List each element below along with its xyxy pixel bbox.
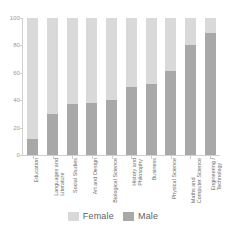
x-label-slot: Education bbox=[23, 157, 43, 207]
x-label-slot: History and Philosophy bbox=[122, 157, 142, 207]
bar-segment-female bbox=[146, 18, 157, 84]
y-axis-labels: 100 80 60 40 20 0 bbox=[0, 14, 20, 155]
y-tick-mark bbox=[19, 73, 22, 74]
x-axis-label-line: Languages and bbox=[53, 158, 59, 196]
plot-area: 100 80 60 40 20 0 bbox=[0, 0, 226, 160]
table-row[interactable] bbox=[126, 18, 137, 155]
x-axis-label-social-studies: Social Studies bbox=[72, 158, 78, 193]
x-label-slot: Languages and Literature bbox=[43, 157, 63, 207]
bar-segment-male bbox=[205, 33, 216, 155]
bar-slot bbox=[181, 18, 201, 155]
x-axis-label-line: Art and Design bbox=[92, 158, 98, 194]
x-axis-label-education: Education bbox=[33, 158, 39, 182]
x-axis-label-line: Physical Science bbox=[171, 158, 177, 200]
x-label-slot: Maths and Computer Science bbox=[181, 157, 201, 207]
y-tick-mark bbox=[19, 18, 22, 19]
y-tick-mark bbox=[19, 128, 22, 129]
x-axis-label-engineering-technology: Engineering / Technology bbox=[210, 158, 222, 190]
bar-segment-female bbox=[67, 18, 78, 104]
bar-segment-male bbox=[185, 45, 196, 155]
table-row[interactable] bbox=[205, 18, 216, 155]
bar-segment-female bbox=[27, 18, 38, 139]
y-tick-mark bbox=[19, 100, 22, 101]
bar-segment-female bbox=[205, 18, 216, 33]
table-row[interactable] bbox=[106, 18, 117, 155]
table-row[interactable] bbox=[67, 18, 78, 155]
bar-slot bbox=[102, 18, 122, 155]
x-axis-label-line: Education bbox=[33, 158, 39, 182]
table-row[interactable] bbox=[27, 18, 38, 155]
chart-legend: Female Male bbox=[0, 212, 226, 221]
bar-slot bbox=[161, 18, 181, 155]
table-row[interactable] bbox=[146, 18, 157, 155]
x-label-slot: Art and Design bbox=[82, 157, 102, 207]
legend-item-female[interactable]: Female bbox=[68, 212, 114, 221]
bar-segment-male bbox=[146, 84, 157, 155]
legend-label: Female bbox=[83, 212, 114, 221]
x-label-slot: Biological Science bbox=[102, 157, 122, 207]
x-axis-label-line: Business bbox=[151, 158, 157, 180]
bar-slot bbox=[23, 18, 43, 155]
bar-segment-male bbox=[27, 139, 38, 155]
bar-segment-male bbox=[47, 114, 58, 155]
legend-label: Male bbox=[138, 212, 158, 221]
x-axis-label-art-and-design: Art and Design bbox=[92, 158, 98, 194]
bars-container bbox=[23, 18, 220, 155]
bar-segment-female bbox=[126, 18, 137, 87]
x-axis-label-physical-science: Physical Science bbox=[171, 158, 177, 200]
bar-segment-female bbox=[47, 18, 58, 114]
table-row[interactable] bbox=[165, 18, 176, 155]
bar-slot bbox=[82, 18, 102, 155]
legend-swatch-icon bbox=[123, 212, 134, 221]
x-axis-label-line: Technology bbox=[216, 158, 222, 190]
legend-swatch-icon bbox=[68, 212, 79, 221]
x-axis-label-biological-science: Biological Science bbox=[112, 158, 118, 203]
bar-segment-female bbox=[185, 18, 196, 45]
table-row[interactable] bbox=[86, 18, 97, 155]
bar-slot bbox=[200, 18, 220, 155]
x-label-slot: Engineering / Technology bbox=[200, 157, 220, 207]
x-axis-label-line: Social Studies bbox=[72, 158, 78, 193]
x-axis-label-business: Business bbox=[151, 158, 157, 180]
legend-item-male[interactable]: Male bbox=[123, 212, 158, 221]
bar-segment-male bbox=[165, 71, 176, 155]
bar-slot bbox=[43, 18, 63, 155]
bar-segment-female bbox=[86, 18, 97, 103]
bar-segment-female bbox=[165, 18, 176, 71]
table-row[interactable] bbox=[47, 18, 58, 155]
x-label-slot: Physical Science bbox=[161, 157, 181, 207]
stacked-bar-chart: 100 80 60 40 20 0 bbox=[0, 0, 226, 240]
bar-segment-male bbox=[126, 87, 137, 156]
bar-segment-female bbox=[106, 18, 117, 100]
bar-segment-male bbox=[106, 100, 117, 155]
bar-slot bbox=[62, 18, 82, 155]
x-axis-category-labels: Education Languages and Literature Socia… bbox=[23, 157, 220, 207]
bar-segment-male bbox=[86, 103, 97, 155]
x-label-slot: Social Studies bbox=[62, 157, 82, 207]
x-label-slot: Business bbox=[141, 157, 161, 207]
bar-slot bbox=[141, 18, 161, 155]
table-row[interactable] bbox=[185, 18, 196, 155]
bar-segment-male bbox=[67, 104, 78, 155]
bar-slot bbox=[122, 18, 142, 155]
y-tick-mark bbox=[19, 45, 22, 46]
x-axis-label-line: Biological Science bbox=[112, 158, 118, 203]
